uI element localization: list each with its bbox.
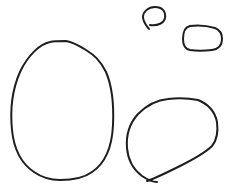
sketch-drawing — [0, 0, 230, 192]
sketch-canvas — [0, 0, 230, 192]
medium-loop-shape — [127, 98, 218, 182]
rounded-rect-shape — [183, 26, 222, 51]
small-loop-shape — [143, 7, 165, 29]
large-oval-shape — [11, 41, 113, 180]
